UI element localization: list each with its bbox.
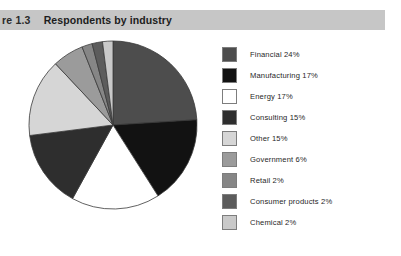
legend-item: Chemical 2% [222,212,397,233]
legend-label: Retail 2% [250,176,284,185]
pie-chart-svg [28,40,198,210]
legend-swatch [222,47,237,62]
legend-label: Consumer products 2% [250,197,332,206]
legend-label: Other 15% [250,134,288,143]
legend-item: Consulting 15% [222,107,397,128]
legend-label: Energy 17% [250,92,293,101]
legend-item: Manufacturing 17% [222,65,397,86]
legend-item: Retail 2% [222,170,397,191]
legend-swatch [222,194,237,209]
legend-swatch [222,152,237,167]
legend-swatch [222,89,237,104]
legend-label: Manufacturing 17% [250,71,318,80]
figure-title: Respondents by industry [44,14,172,26]
legend-item: Other 15% [222,128,397,149]
legend-label: Chemical 2% [250,218,296,227]
legend-label: Government 6% [250,155,307,164]
legend-item: Government 6% [222,149,397,170]
chart-legend: Financial 24%Manufacturing 17%Energy 17%… [222,44,397,233]
legend-swatch [222,110,237,125]
legend-swatch [222,131,237,146]
legend-swatch [222,68,237,83]
legend-item: Consumer products 2% [222,191,397,212]
figure-caption-band: re 1.3 Respondents by industry [0,10,385,30]
figure-number: re 1.3 [2,14,31,26]
legend-item: Financial 24% [222,44,397,65]
pie-chart [28,40,198,210]
pie-slice [113,41,197,125]
legend-label: Consulting 15% [250,113,305,122]
legend-swatch [222,215,237,230]
legend-item: Energy 17% [222,86,397,107]
legend-swatch [222,173,237,188]
legend-label: Financial 24% [250,50,300,59]
